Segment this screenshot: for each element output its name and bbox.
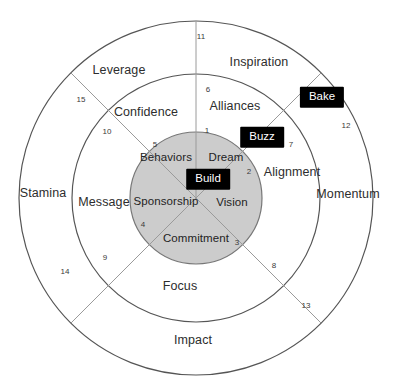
number-marker-13: 13	[301, 302, 310, 310]
middle-label-message: Message	[78, 196, 129, 209]
number-marker-2: 2	[247, 168, 252, 176]
number-marker-4: 4	[141, 221, 146, 229]
core-label-commitment: Commitment	[163, 233, 229, 245]
number-marker-3: 3	[235, 239, 240, 247]
number-marker-10: 10	[102, 128, 111, 136]
number-marker-11: 11	[197, 33, 206, 41]
core-label-behaviors: Behaviors	[140, 152, 192, 164]
middle-label-alignment: Alignment	[264, 166, 321, 179]
middle-label-confidence: Confidence	[114, 106, 178, 119]
number-marker-6: 6	[206, 86, 211, 94]
outer-label-momentum: Momentum	[316, 188, 379, 201]
number-marker-15: 15	[76, 96, 85, 104]
outer-label-impact: Impact	[174, 334, 212, 347]
number-marker-7: 7	[289, 141, 294, 149]
number-marker-14: 14	[60, 268, 69, 276]
outer-label-inspiration: Inspiration	[230, 56, 289, 69]
core-label-vision: Vision	[216, 197, 248, 209]
core-label-sponsorship: Sponsorship	[133, 196, 198, 208]
number-marker-9: 9	[103, 254, 108, 262]
number-marker-8: 8	[272, 262, 277, 270]
number-marker-5: 5	[153, 141, 158, 149]
middle-label-focus: Focus	[163, 280, 198, 293]
outer-label-leverage: Leverage	[93, 64, 146, 77]
number-marker-12: 12	[341, 122, 350, 130]
chip-bake: Bake	[300, 87, 344, 108]
ring-diagram: Dream Behaviors Sponsorship Vision Commi…	[0, 0, 396, 386]
core-label-dream: Dream	[208, 152, 243, 164]
number-marker-1: 1	[205, 127, 210, 135]
chip-buzz: Buzz	[240, 127, 284, 148]
outer-label-stamina: Stamina	[20, 187, 67, 200]
middle-label-alliances: Alliances	[210, 100, 261, 113]
chip-build: Build	[186, 169, 230, 190]
